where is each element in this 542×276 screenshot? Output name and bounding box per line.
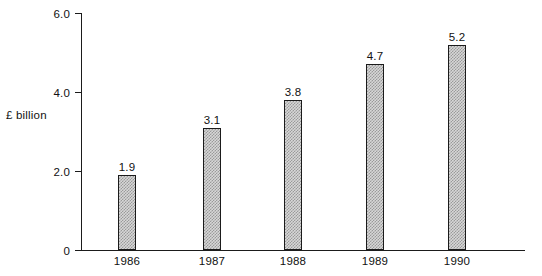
- x-tick-label-1989: 1989: [362, 255, 388, 267]
- y-tick-4: 4.0: [75, 92, 81, 93]
- bar-value-label: 5.2: [449, 31, 466, 43]
- bar-chart: £ billion 6.0 4.0 2.0 0 1.9 3.1 3.8 4.7 …: [0, 0, 542, 276]
- bar-1987[interactable]: 3.1: [203, 128, 221, 250]
- x-tick-label-1988: 1988: [280, 255, 306, 267]
- y-tick-2: 2.0: [75, 171, 81, 172]
- y-axis-title: £ billion: [6, 109, 47, 121]
- y-axis-line: [81, 13, 82, 251]
- bar-value-label: 1.9: [119, 161, 136, 173]
- bar-value-label: 4.7: [367, 50, 384, 62]
- bar-1986[interactable]: 1.9: [118, 175, 136, 250]
- y-tick-label-4: 4.0: [53, 87, 70, 99]
- y-tick-label-0: 0: [63, 245, 70, 257]
- x-tick-label-1990: 1990: [444, 255, 470, 267]
- bar-1990[interactable]: 5.2: [448, 45, 466, 250]
- bar-1988[interactable]: 3.8: [284, 100, 302, 250]
- y-tick-6: 6.0: [75, 13, 81, 14]
- x-tick-label-1986: 1986: [114, 255, 140, 267]
- y-tick-0: 0: [75, 250, 81, 251]
- x-tick-label-1987: 1987: [199, 255, 225, 267]
- bar-1989[interactable]: 4.7: [366, 64, 384, 250]
- x-axis-line: [81, 250, 525, 251]
- y-tick-label-6: 6.0: [53, 8, 70, 20]
- bar-value-label: 3.1: [204, 114, 221, 126]
- bar-value-label: 3.8: [285, 86, 302, 98]
- y-tick-label-2: 2.0: [53, 166, 70, 178]
